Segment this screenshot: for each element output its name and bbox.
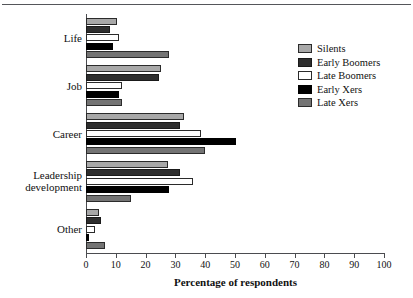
legend-label: Late Boomers	[317, 70, 376, 81]
bar-job-silents	[86, 65, 161, 72]
legend-label: Silents	[317, 43, 346, 54]
bar-career-silents	[86, 113, 184, 120]
x-tick-label-10: 10	[101, 259, 131, 271]
legend-item-late-xers[interactable]: Late Xers	[298, 96, 413, 110]
category-label-other: Other	[4, 223, 82, 235]
bar-life-early-xers	[86, 43, 113, 50]
bar-other-early-xers	[86, 234, 89, 241]
category-label-career: Career	[4, 128, 82, 140]
x-tick-mark-100	[384, 254, 385, 258]
legend-item-silents[interactable]: Silents	[298, 42, 413, 56]
category-label-life: Life	[4, 32, 82, 44]
x-tick-mark-80	[324, 254, 325, 258]
x-tick-label-80: 80	[309, 259, 339, 271]
x-tick-mark-60	[265, 254, 266, 258]
bar-career-late-xers	[86, 147, 205, 154]
bar-other-silents	[86, 209, 99, 216]
bar-career-late-boomers	[86, 130, 201, 137]
x-tick-mark-90	[354, 254, 355, 258]
x-tick-label-40: 40	[190, 259, 220, 271]
category-label-job: Job	[4, 80, 82, 92]
bar-leadership-development-silents	[86, 161, 168, 168]
bar-career-early-xers	[86, 138, 236, 145]
x-tick-label-90: 90	[339, 259, 369, 271]
bar-job-late-xers	[86, 99, 122, 106]
x-tick-label-60: 60	[250, 259, 280, 271]
chart-figure: LifeJobCareerLeadershipdevelopmentOther …	[0, 0, 413, 298]
legend-swatch-silents-icon	[298, 44, 312, 53]
bar-leadership-development-late-boomers	[86, 178, 193, 185]
bar-leadership-development-early-xers	[86, 186, 169, 193]
x-tick-label-100: 100	[369, 259, 399, 271]
x-tick-label-30: 30	[160, 259, 190, 271]
x-tick-label-50: 50	[220, 259, 250, 271]
legend-label: Late Xers	[317, 97, 358, 108]
bar-career-early-boomers	[86, 122, 180, 129]
x-tick-label-70: 70	[280, 259, 310, 271]
bar-other-early-boomers	[86, 217, 101, 224]
category-axis-labels: LifeJobCareerLeadershipdevelopmentOther	[0, 14, 82, 254]
x-tick-mark-20	[146, 254, 147, 258]
x-tick-mark-40	[205, 254, 206, 258]
bar-job-early-boomers	[86, 74, 159, 81]
legend-label: Early Xers	[317, 84, 362, 95]
legend-label: Early Boomers	[317, 57, 380, 68]
legend-swatch-early-xers-icon	[298, 85, 312, 94]
legend-item-early-boomers[interactable]: Early Boomers	[298, 56, 413, 70]
x-tick-mark-50	[235, 254, 236, 258]
bar-job-early-xers	[86, 91, 119, 98]
x-tick-mark-10	[116, 254, 117, 258]
legend-item-late-boomers[interactable]: Late Boomers	[298, 69, 413, 83]
legend-swatch-late-xers-icon	[298, 98, 312, 107]
bar-life-early-boomers	[86, 26, 110, 33]
x-tick-label-0: 0	[71, 259, 101, 271]
bar-job-late-boomers	[86, 82, 122, 89]
bar-other-late-boomers	[86, 226, 95, 233]
x-axis-title: Percentage of respondents	[86, 276, 385, 288]
x-tick-mark-0	[86, 254, 87, 258]
legend-swatch-early-boomers-icon	[298, 58, 312, 67]
bar-leadership-development-late-xers	[86, 195, 131, 202]
category-label-leadership-development: Leadershipdevelopment	[4, 169, 82, 193]
legend-item-early-xers[interactable]: Early Xers	[298, 83, 413, 97]
x-tick-mark-30	[175, 254, 176, 258]
top-rule-divider	[2, 4, 411, 5]
x-tick-label-20: 20	[131, 259, 161, 271]
x-tick-mark-70	[295, 254, 296, 258]
bar-leadership-development-early-boomers	[86, 169, 180, 176]
bar-life-silents	[86, 18, 117, 25]
bar-other-late-xers	[86, 242, 105, 249]
bar-life-late-boomers	[86, 34, 119, 41]
legend-swatch-late-boomers-icon	[298, 71, 312, 80]
bar-life-late-xers	[86, 51, 169, 58]
chart-legend: SilentsEarly BoomersLate BoomersEarly Xe…	[298, 42, 413, 110]
